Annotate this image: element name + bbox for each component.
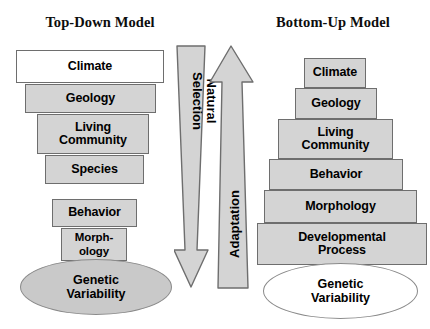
tier-climate-right: Climate [304,58,366,88]
tier-behavior-right: Behavior [269,159,403,190]
base-genetic-variability-left: Genetic Variability [20,259,172,315]
evolution-models-figure: Top-Down Model Bottom-Up Model Climate G… [0,0,430,329]
tier-living-community-left: Living Community [37,114,149,154]
tier-species-left: Species [45,155,144,184]
base-genetic-variability-right: Genetic Variability [263,263,418,319]
tier-behavior-left: Behavior [52,199,137,227]
tier-morphology-right: Morphology [264,190,417,223]
tier-geology-right: Geology [295,88,377,119]
adaptation-arrow-label: Adaptation [221,183,247,265]
left-model-title: Top-Down Model [0,14,200,31]
tier-climate-left: Climate [16,50,164,83]
tier-developmental-process-right: Developmental Process [257,223,427,265]
tier-morphology-left: Morph- ology [61,228,127,261]
tier-living-community-right: Living Community [278,119,393,159]
tier-geology-left: Geology [25,84,156,113]
right-model-title: Bottom-Up Model [236,14,430,31]
